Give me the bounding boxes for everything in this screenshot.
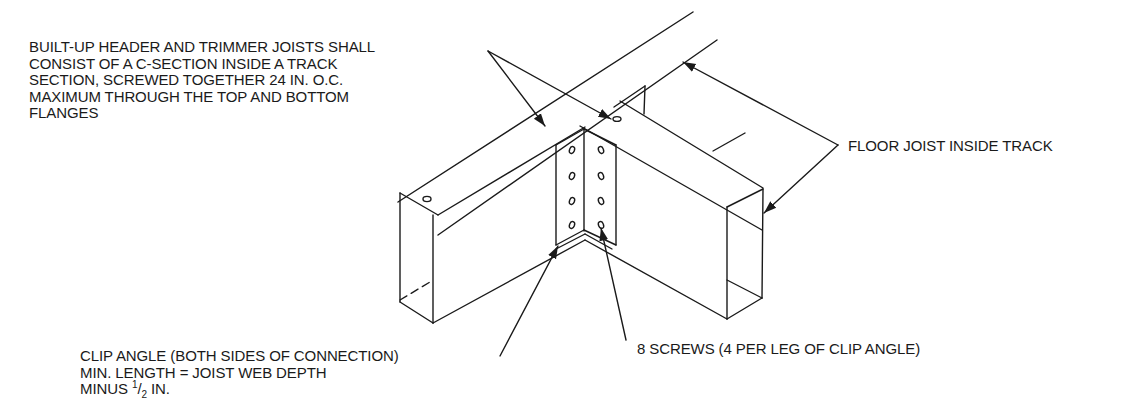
floor-joist-note-text: FLOOR JOIST INSIDE TRACK: [848, 138, 1053, 155]
leader-clip-angle-note: [500, 246, 558, 356]
screws-note-text: 8 SCREWS (4 PER LEG OF CLIP ANGLE): [637, 341, 920, 358]
header-note-line-5: FLANGES: [29, 105, 375, 122]
clip-angle-note-line-1: CLIP ANGLE (BOTH SIDES OF CONNECTION): [80, 348, 399, 365]
header-note-line-4: MAXIMUM THROUGH THE TOP AND BOTTOM: [29, 89, 375, 106]
clip-angle-note: CLIP ANGLE (BOTH SIDES OF CONNECTION) MI…: [80, 348, 399, 398]
trimmer-joist: [580, 86, 763, 319]
header-joist: [398, 12, 717, 323]
diagram-canvas: BUILT-UP HEADER AND TRIMMER JOISTS SHALL…: [0, 0, 1138, 419]
screws-note: 8 SCREWS (4 PER LEG OF CLIP ANGLE): [637, 341, 920, 358]
header-joist-note: BUILT-UP HEADER AND TRIMMER JOISTS SHALL…: [29, 39, 375, 122]
header-note-line-2: CONSIST OF A C-SECTION INSIDE A TRACK: [29, 56, 375, 73]
clip-angle-line3-suffix: IN.: [147, 380, 170, 397]
header-note-line-3: SECTION, SCREWED TOGETHER 24 IN. O.C.: [29, 72, 375, 89]
header-note-line-1: BUILT-UP HEADER AND TRIMMER JOISTS SHALL: [29, 39, 375, 56]
clip-angle-note-line-3: MINUS 1/2 IN.: [80, 381, 399, 398]
floor-joist-note: FLOOR JOIST INSIDE TRACK: [848, 138, 1053, 155]
leader-header-note: [488, 51, 611, 126]
clip-angle-line3-prefix: MINUS: [80, 380, 132, 397]
clip-angle-note-line-2: MIN. LENGTH = JOIST WEB DEPTH: [80, 365, 399, 382]
leader-screws-note: [601, 228, 626, 340]
